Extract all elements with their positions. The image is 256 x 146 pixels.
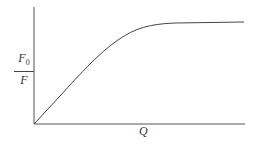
saturation-curve [34,22,244,124]
y-axis-label: F0 F [14,52,34,87]
y-label-numerator: F0 [14,52,34,69]
plot-area [0,0,256,146]
fraction-bar [14,71,34,72]
x-axis-label: Q [139,124,148,139]
y-label-denominator: F [14,74,34,87]
